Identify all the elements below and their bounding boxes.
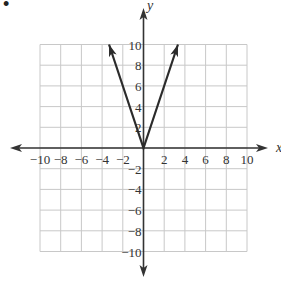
y-tick-label: 8 xyxy=(135,58,142,73)
x-tick-label: −8 xyxy=(54,152,68,167)
x-tick-label: 8 xyxy=(223,152,230,167)
y-tick-label: −2 xyxy=(128,162,142,177)
y-tick-label: 6 xyxy=(135,79,142,94)
x-tick-label: 10 xyxy=(241,152,254,167)
coordinate-plane: −10−8−6−4−2246810108642−2−4−6−8−10 x y xyxy=(0,0,281,282)
y-tick-label: −10 xyxy=(121,245,141,260)
x-axis-label: x xyxy=(275,140,281,155)
x-tick-label: −6 xyxy=(74,152,88,167)
y-tick-label: −8 xyxy=(128,224,142,239)
x-tick-label: 2 xyxy=(161,152,168,167)
x-tick-label: −10 xyxy=(30,152,50,167)
y-tick-label: 4 xyxy=(135,100,142,115)
y-tick-label: 10 xyxy=(129,38,142,53)
x-tick-label: 4 xyxy=(182,152,189,167)
x-tick-label: 6 xyxy=(202,152,209,167)
y-axis-label: y xyxy=(145,0,154,13)
y-tick-label: −4 xyxy=(128,182,142,197)
y-tick-label: −6 xyxy=(128,203,142,218)
x-tick-label: −4 xyxy=(95,152,109,167)
